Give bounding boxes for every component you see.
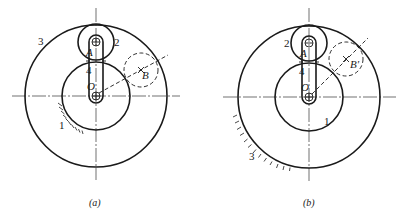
- label-arm: 4: [299, 65, 305, 77]
- label-point-b: B: [142, 69, 149, 81]
- figure-b: 2 1 3 4 A O B' (b): [223, 8, 396, 209]
- label-point-a: A: [299, 47, 307, 59]
- label-ring-gear: 3: [249, 150, 255, 162]
- label-ring-gear: 3: [38, 35, 44, 47]
- label-point-o: O: [301, 81, 309, 93]
- label-planet-gear: 2: [114, 36, 120, 48]
- dashed-arm-line-b: [99, 55, 168, 93]
- label-sun-gear: 1: [59, 119, 65, 131]
- dashed-arm-line-b-prime: [312, 38, 368, 94]
- caption-b: (b): [303, 197, 315, 209]
- label-point-o: O: [87, 80, 95, 92]
- diagram-canvas: 3 2 1 4 A O B (a): [0, 0, 401, 219]
- label-sun-gear: 1: [324, 115, 330, 127]
- label-point-a: A: [85, 46, 93, 58]
- label-point-b-prime: B': [350, 58, 360, 70]
- caption-a: (a): [89, 197, 101, 209]
- label-arm: 4: [86, 64, 92, 76]
- label-planet-gear: 2: [284, 37, 290, 49]
- figure-a: 3 2 1 4 A O B (a): [12, 8, 180, 209]
